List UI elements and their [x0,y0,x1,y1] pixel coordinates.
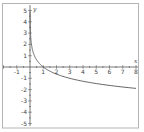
y-tick-label: 3 [23,29,27,36]
y-tick-label: 5 [23,7,27,14]
x-tick-label: 3 [68,68,72,75]
x-tick-label: 8 [134,68,138,75]
y-axis-label: y [32,5,37,13]
x-tick-label: 5 [94,68,98,75]
y-tick-label: -2 [21,86,27,93]
function-plot: -11234567854321-1-2-3-4-5 x y [0,0,144,132]
y-tick-label: -3 [21,97,27,104]
x-tick-label: 4 [81,68,85,75]
y-tick-label: -1 [21,74,27,81]
y-tick-label: 1 [23,52,27,59]
y-tick-label: -5 [21,120,27,127]
x-tick-label: 1 [41,68,45,75]
y-tick-label: 2 [23,40,27,47]
x-tick-label: 7 [121,68,125,75]
y-tick-label: 4 [23,18,27,25]
x-tick-label: 6 [108,68,112,75]
y-tick-label: -4 [21,108,27,115]
x-tick-label: -1 [14,68,20,75]
